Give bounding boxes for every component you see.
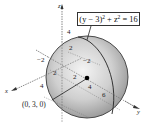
y-axis-label: y [136,108,140,115]
equation-callout: (y − 3)2 + z2 = 16 [77,12,140,26]
z-arrow-icon [61,4,64,9]
x-arrow-icon [11,87,17,91]
tick-y-4: 4 [88,83,92,91]
tick-y-6: 6 [102,91,106,99]
tick-z-2: 2 [69,44,73,52]
tick-x-2: 2 [53,69,57,77]
z-axis-label: z [57,2,61,9]
callout-lhs: (y − 3) [79,15,102,24]
sphere-diagram: z x y 4 2 −2 −2 2 2 4 4 6 (y − 3)2 + z2 … [0,0,147,129]
tick-x-neg2: −2 [37,56,45,64]
x-axis-label: x [4,87,8,94]
center-label: (0, 3, 0) [22,100,46,109]
tick-y-2: 2 [73,73,77,81]
tick-x-4: 4 [40,82,44,90]
tick-y-neg2: −2 [83,57,91,65]
callout-rhs: = 16 [120,15,137,24]
tick-z-4: 4 [67,28,71,36]
callout-plus: + z [105,15,118,24]
